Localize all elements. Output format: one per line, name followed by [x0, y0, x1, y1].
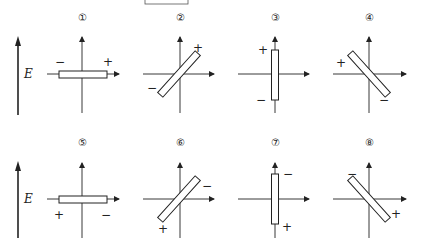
panel-label: ⑤ — [78, 137, 87, 148]
dipole-rod — [59, 71, 107, 78]
panel-label: ③ — [271, 12, 280, 23]
panel-label: ① — [78, 12, 87, 23]
panel-2: ② + − — [143, 12, 214, 113]
plus-sign: + — [193, 41, 203, 55]
plus-sign: + — [282, 220, 292, 234]
plus-sign: + — [336, 56, 346, 70]
dipole-rod — [272, 174, 279, 224]
panel-6: ⑥ − + — [143, 137, 214, 238]
panel-label: ⑦ — [271, 137, 280, 148]
plus-sign: + — [54, 208, 64, 222]
minus-sign: − — [202, 179, 212, 193]
dipole-rod — [59, 196, 107, 203]
panel-8: ⑧ − + — [333, 137, 406, 238]
field-arrow-top: E — [15, 36, 33, 115]
field-label: E — [23, 67, 33, 81]
panel-label: ④ — [365, 12, 374, 23]
plus-sign: + — [391, 207, 401, 221]
panel-label: ⑧ — [365, 137, 374, 148]
minus-sign: − — [147, 81, 157, 95]
panel-4: ④ + − — [333, 12, 406, 113]
panel-label: ② — [176, 12, 185, 23]
arrow-head-icon — [15, 36, 21, 46]
minus-sign: − — [283, 167, 293, 181]
plus-sign: + — [258, 43, 268, 57]
field-arrow-bottom: E — [15, 161, 33, 238]
panel-3: ③ + − — [238, 12, 309, 113]
panel-5: ⑤ + − — [47, 137, 119, 238]
minus-sign: − — [55, 55, 65, 69]
minus-sign: − — [101, 208, 111, 222]
dipole-rod — [272, 50, 279, 100]
plus-sign: + — [158, 222, 168, 236]
answer-box — [145, 0, 188, 4]
minus-sign: − — [379, 93, 389, 107]
dipole-orientation-diagram: E ① − + ② + − ③ + − ④ + − — [0, 0, 422, 245]
panel-label: ⑥ — [176, 137, 185, 148]
panel-1: ① − + — [47, 12, 119, 113]
minus-sign: − — [347, 167, 357, 181]
panel-7: ⑦ − + — [238, 137, 309, 238]
plus-sign: + — [103, 55, 113, 69]
arrow-head-icon — [15, 161, 21, 171]
minus-sign: − — [256, 93, 266, 107]
field-label: E — [23, 192, 33, 206]
